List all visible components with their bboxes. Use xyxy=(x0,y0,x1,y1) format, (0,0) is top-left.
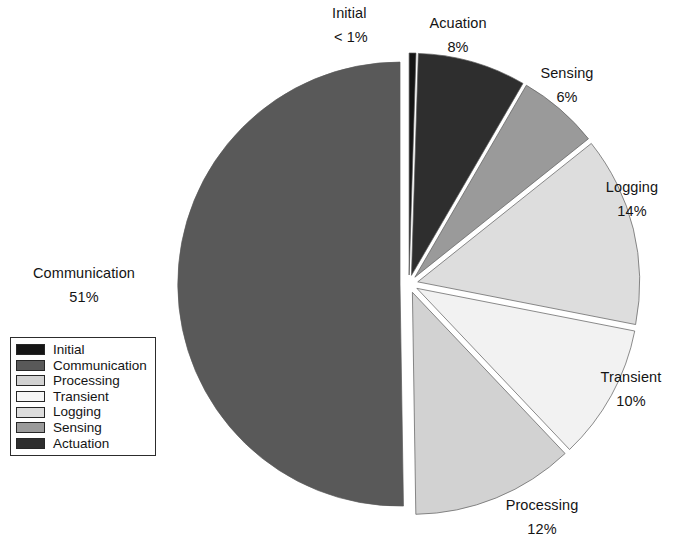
legend-item-communication: Communication xyxy=(16,358,150,374)
pie-slice-communication[interactable] xyxy=(178,62,404,506)
legend-item-actuation: Actuation xyxy=(16,436,150,452)
legend-label-logging: Logging xyxy=(53,405,101,419)
slice-callout-communication: Communication 51% xyxy=(20,266,148,304)
chart-legend: InitialCommunicationProcessingTransientL… xyxy=(10,337,156,456)
slice-callout-sensing-value: 6% xyxy=(528,90,606,105)
slice-callout-logging-label: Logging xyxy=(592,180,672,195)
legend-label-communication: Communication xyxy=(53,359,147,373)
slice-callout-processing: Processing 12% xyxy=(494,498,590,536)
pie-chart: Initial < 1% Acuation 8% Sensing 6% Logg… xyxy=(0,0,678,541)
legend-label-sensing: Sensing xyxy=(53,421,102,435)
slice-callout-initial: Initial < 1% xyxy=(332,6,410,44)
legend-swatch-actuation xyxy=(16,438,45,449)
legend-swatch-logging xyxy=(16,407,45,418)
slice-callout-logging-value: 14% xyxy=(592,204,672,219)
slice-callout-processing-value: 12% xyxy=(494,522,590,537)
slice-callout-transient-label: Transient xyxy=(588,370,674,385)
slice-callout-actuation-label: Acuation xyxy=(412,16,504,31)
slice-callout-communication-value: 51% xyxy=(20,290,148,305)
slice-callout-transient: Transient 10% xyxy=(588,370,674,408)
legend-item-processing: Processing xyxy=(16,373,150,389)
slice-callout-sensing: Sensing 6% xyxy=(528,66,606,104)
slice-callout-sensing-label: Sensing xyxy=(528,66,606,81)
slice-callout-initial-label: Initial xyxy=(332,6,410,21)
legend-swatch-communication xyxy=(16,360,45,371)
slice-callout-logging: Logging 14% xyxy=(592,180,672,218)
legend-item-logging: Logging xyxy=(16,404,150,420)
legend-label-processing: Processing xyxy=(53,374,120,388)
slice-callout-processing-label: Processing xyxy=(494,498,590,513)
legend-item-transient: Transient xyxy=(16,389,150,405)
legend-item-sensing: Sensing xyxy=(16,420,150,436)
legend-swatch-initial xyxy=(16,344,45,355)
legend-swatch-transient xyxy=(16,391,45,402)
slice-callout-communication-label: Communication xyxy=(20,266,148,281)
legend-swatch-processing xyxy=(16,375,45,386)
slice-callout-initial-value: < 1% xyxy=(334,30,410,45)
slice-callout-actuation-value: 8% xyxy=(412,40,504,55)
legend-label-actuation: Actuation xyxy=(53,437,109,451)
slice-callout-actuation: Acuation 8% xyxy=(412,16,504,54)
legend-label-initial: Initial xyxy=(53,343,85,357)
legend-item-initial: Initial xyxy=(16,342,150,358)
slice-callout-transient-value: 10% xyxy=(588,394,674,409)
legend-label-transient: Transient xyxy=(53,390,109,404)
legend-swatch-sensing xyxy=(16,422,45,433)
